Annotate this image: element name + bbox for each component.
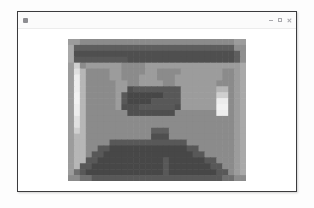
pixelated-grayscale-photo[interactable] (68, 39, 246, 181)
window-controls-group (269, 18, 291, 22)
desktop-backdrop (0, 0, 314, 208)
minimize-icon[interactable] (269, 18, 273, 22)
mosaic-canvas (68, 39, 246, 181)
image-viewer-content (18, 29, 296, 191)
application-window (17, 11, 297, 192)
maximize-icon[interactable] (278, 18, 282, 22)
close-icon[interactable] (287, 18, 291, 22)
app-grid-icon[interactable] (23, 18, 28, 23)
titlebar-left-group (23, 18, 31, 23)
window-title-bar[interactable] (18, 12, 296, 29)
